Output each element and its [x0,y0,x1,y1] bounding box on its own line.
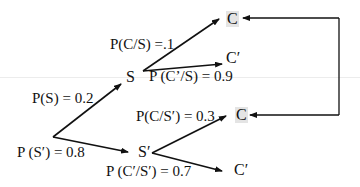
label-p-cprime-given-sprime: P (C′/S′) = 0.7 [106,163,191,179]
label-p-c-given-sprime: P(C/S′) = 0.3 [136,108,215,124]
node-c-mid: C [235,107,248,123]
label-p-s: P(S) = 0.2 [32,90,93,106]
label-p-cprime-given-s: P (C’/S) = 0.9 [149,68,233,84]
node-c-top: C [226,11,239,27]
node-c-prime-top: C′ [226,50,240,66]
label-p-sprime: P (S′) = 0.8 [17,144,85,160]
node-c-prime-bottom: C′ [234,162,248,178]
node-s-prime: S′ [138,144,150,160]
node-s: S [126,69,135,85]
label-p-c-given-s: P(C/S) =.1 [110,36,174,52]
